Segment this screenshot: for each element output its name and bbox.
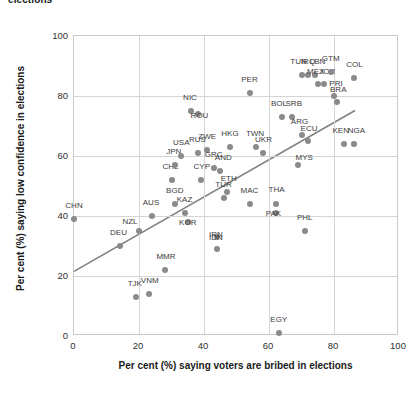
data-point — [117, 243, 123, 249]
data-point-label: VNM — [141, 277, 159, 285]
data-point-label: KOR — [179, 219, 196, 227]
data-point-label: TJK — [128, 280, 142, 288]
data-point-label: MAC — [241, 187, 259, 195]
chart-title: elections — [8, 0, 52, 5]
gridline-horizontal — [74, 96, 397, 97]
data-point — [195, 150, 201, 156]
data-point — [169, 177, 175, 183]
data-point — [305, 138, 311, 144]
data-point-label: GTM — [322, 55, 340, 63]
data-point — [302, 228, 308, 234]
data-point-label: KEN — [333, 127, 349, 135]
data-point-label: USA — [173, 139, 189, 147]
data-point-label: PER — [241, 76, 257, 84]
data-point — [221, 195, 227, 201]
data-point-label: KAZ — [177, 196, 193, 204]
data-point — [136, 228, 142, 234]
data-point-label: IRN — [209, 231, 223, 239]
data-point-label: ECU — [301, 125, 318, 133]
data-point-label: EGY — [270, 316, 287, 324]
data-point — [321, 81, 327, 87]
y-axis-title: Per cent (%) saying low confidence in el… — [15, 29, 26, 329]
x-axis-title: Per cent (%) saying voters are bribed in… — [73, 360, 398, 371]
data-point-label: BRA — [330, 86, 346, 94]
data-point-label: THA — [269, 186, 285, 194]
data-point — [71, 216, 77, 222]
data-point-label: NIC — [183, 94, 197, 102]
plot-area: CHNDEUNZLAUSTJKVNMMMRCHLJPNBGDUSAKAZKORN… — [73, 35, 398, 335]
data-point-label: NGA — [348, 127, 365, 135]
y-tick-label: 40 — [42, 210, 68, 221]
data-point — [334, 99, 340, 105]
data-point — [214, 246, 220, 252]
data-point-label: ROU — [191, 112, 209, 120]
data-point — [182, 210, 188, 216]
data-point — [198, 177, 204, 183]
data-point — [295, 162, 301, 168]
data-point — [162, 267, 168, 273]
y-tick-label: 0 — [42, 330, 68, 341]
data-point-label: PHL — [297, 214, 313, 222]
data-point-label: SRB — [286, 100, 302, 108]
data-point — [211, 165, 217, 171]
data-point — [227, 144, 233, 150]
data-point — [133, 294, 139, 300]
data-point — [253, 144, 259, 150]
data-point — [172, 162, 178, 168]
gridline-vertical — [204, 36, 205, 334]
data-point-label: CHN — [65, 202, 82, 210]
data-point — [351, 75, 357, 81]
data-point-label: AND — [215, 154, 232, 162]
trend-line — [74, 36, 397, 334]
x-tick-label: 0 — [70, 340, 75, 351]
data-point — [299, 72, 305, 78]
y-tick-label: 100 — [42, 30, 68, 41]
data-point — [178, 153, 184, 159]
data-point-label: MYS — [296, 154, 313, 162]
data-point-label: MMR — [156, 253, 175, 261]
data-point — [276, 330, 282, 336]
data-point-label: AUS — [143, 199, 159, 207]
data-point-label: PAK — [266, 210, 281, 218]
data-point-label: COL — [346, 61, 362, 69]
scatter-chart: elections 020406080100 020406080100 CHND… — [0, 0, 416, 398]
x-tick-label: 100 — [390, 340, 406, 351]
data-point-label: DEU — [110, 229, 127, 237]
gridline-vertical — [139, 36, 140, 334]
data-point-label: BGD — [166, 187, 183, 195]
data-point-label: UKR — [255, 136, 272, 144]
x-tick-label: 60 — [263, 340, 274, 351]
data-point — [149, 213, 155, 219]
data-point — [351, 141, 357, 147]
y-axis-ticks: 020406080100 — [40, 35, 68, 335]
data-point-label: ETH — [221, 175, 237, 183]
data-point-label: NZL — [122, 218, 137, 226]
data-point — [273, 201, 279, 207]
x-axis-ticks: 020406080100 — [73, 340, 398, 354]
data-point — [328, 69, 334, 75]
x-tick-label: 20 — [133, 340, 144, 351]
y-tick-label: 60 — [42, 150, 68, 161]
data-point — [224, 189, 230, 195]
x-tick-label: 40 — [198, 340, 209, 351]
gridline-horizontal — [74, 276, 397, 277]
data-point-label: HKG — [221, 130, 238, 138]
data-point — [315, 81, 321, 87]
x-tick-label: 80 — [328, 340, 339, 351]
data-point-label: CYP — [194, 163, 210, 171]
data-point — [341, 141, 347, 147]
y-tick-label: 20 — [42, 270, 68, 281]
data-point — [146, 291, 152, 297]
data-point — [260, 150, 266, 156]
data-point-label: ZWE — [198, 133, 216, 141]
y-tick-label: 80 — [42, 90, 68, 101]
gridline-horizontal — [74, 156, 397, 157]
data-point — [279, 114, 285, 120]
data-point — [247, 90, 253, 96]
data-point — [247, 201, 253, 207]
